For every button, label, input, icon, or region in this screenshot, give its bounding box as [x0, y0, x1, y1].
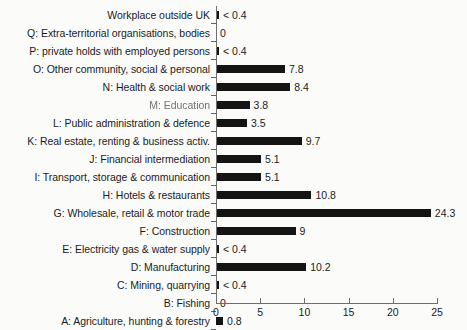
bar [216, 191, 311, 199]
chart-row: H: Hotels & restaurants10.8 [0, 186, 467, 204]
bar-value-label: 8.4 [294, 78, 309, 96]
bar-value-label: 5.1 [265, 168, 280, 186]
bar-value-label: < 0.4 [223, 240, 247, 258]
value-axis-tick [393, 298, 394, 303]
category-axis-line [216, 6, 217, 303]
chart-row: E: Electricity gas & water supply< 0.4 [0, 240, 467, 258]
chart-row: C: Mining, quarrying< 0.4 [0, 276, 467, 294]
chart-row: I: Transport, storage & communication5.1 [0, 168, 467, 186]
value-axis-line [216, 303, 438, 304]
value-axis-tick-label: 25 [417, 306, 457, 318]
value-axis-tick-label: 20 [373, 306, 413, 318]
bar [216, 227, 296, 235]
category-label: B: Fishing [0, 294, 210, 312]
value-axis-tick [437, 298, 438, 303]
bar-value-label: 10.2 [310, 258, 330, 276]
chart-row: N: Health & social work8.4 [0, 78, 467, 96]
bar [216, 65, 285, 73]
category-label: P: private holds with employed persons [0, 42, 210, 60]
value-axis-tick [216, 298, 217, 303]
category-label: A: Agriculture, hunting & forestry [0, 312, 210, 330]
category-label: O: Other community, social & personal [0, 60, 210, 78]
value-axis-tick [349, 298, 350, 303]
chart-row: Q: Extra-territorial organisations, bodi… [0, 24, 467, 42]
bar-value-label: 3.5 [251, 114, 266, 132]
category-label: H: Hotels & restaurants [0, 186, 210, 204]
bar [216, 101, 250, 109]
bar [216, 209, 431, 217]
bar-value-label: < 0.4 [223, 276, 247, 294]
category-label: G: Wholesale, retail & motor trade [0, 204, 210, 222]
category-label: K: Real estate, renting & business activ… [0, 132, 210, 150]
chart-row: G: Wholesale, retail & motor trade24.3 [0, 204, 467, 222]
bar-value-label: 0 [220, 24, 226, 42]
bar-value-label: 24.3 [435, 204, 455, 222]
chart-row: K: Real estate, renting & business activ… [0, 132, 467, 150]
chart-row: D: Manufacturing10.2 [0, 258, 467, 276]
bar-chart: Workplace outside UK< 0.4Q: Extra-territ… [0, 0, 467, 330]
chart-row: O: Other community, social & personal7.8 [0, 60, 467, 78]
chart-row: F: Construction9 [0, 222, 467, 240]
category-label: I: Transport, storage & communication [0, 168, 210, 186]
bar [216, 137, 302, 145]
chart-row: Workplace outside UK< 0.4 [0, 6, 467, 24]
category-label: N: Health & social work [0, 78, 210, 96]
bar-value-label: 3.8 [254, 96, 269, 114]
bar-value-label: 10.8 [315, 186, 335, 204]
bar [216, 83, 290, 91]
value-axis-tick-label: 0 [196, 306, 236, 318]
bar [216, 155, 261, 163]
category-label: Q: Extra-territorial organisations, bodi… [0, 24, 210, 42]
chart-row: L: Public administration & defence3.5 [0, 114, 467, 132]
chart-row: M: Education3.8 [0, 96, 467, 114]
value-axis-tick [304, 298, 305, 303]
bar-value-label: 9.7 [306, 132, 321, 150]
bar-value-label: < 0.4 [223, 6, 247, 24]
bar [216, 263, 306, 271]
category-label: C: Mining, quarrying [0, 276, 210, 294]
value-axis-tick-label: 10 [284, 306, 324, 318]
category-label: L: Public administration & defence [0, 114, 210, 132]
value-axis-tick [260, 298, 261, 303]
category-label: D: Manufacturing [0, 258, 210, 276]
bar-value-label: < 0.4 [223, 42, 247, 60]
category-label: J: Financial intermediation [0, 150, 210, 168]
bar [216, 317, 223, 325]
category-label: F: Construction [0, 222, 210, 240]
bar-value-label: 7.8 [289, 60, 304, 78]
chart-row: J: Financial intermediation5.1 [0, 150, 467, 168]
chart-row: P: private holds with employed persons< … [0, 42, 467, 60]
plot-area: Workplace outside UK< 0.4Q: Extra-territ… [0, 0, 467, 330]
category-label: E: Electricity gas & water supply [0, 240, 210, 258]
bar-value-label: 9 [300, 222, 306, 240]
bar [216, 173, 261, 181]
value-axis-tick-label: 5 [240, 306, 280, 318]
category-label: M: Education [0, 96, 210, 114]
bar-value-label: 5.1 [265, 150, 280, 168]
value-axis-tick-label: 15 [329, 306, 369, 318]
category-label: Workplace outside UK [0, 6, 210, 24]
bar [216, 119, 247, 127]
